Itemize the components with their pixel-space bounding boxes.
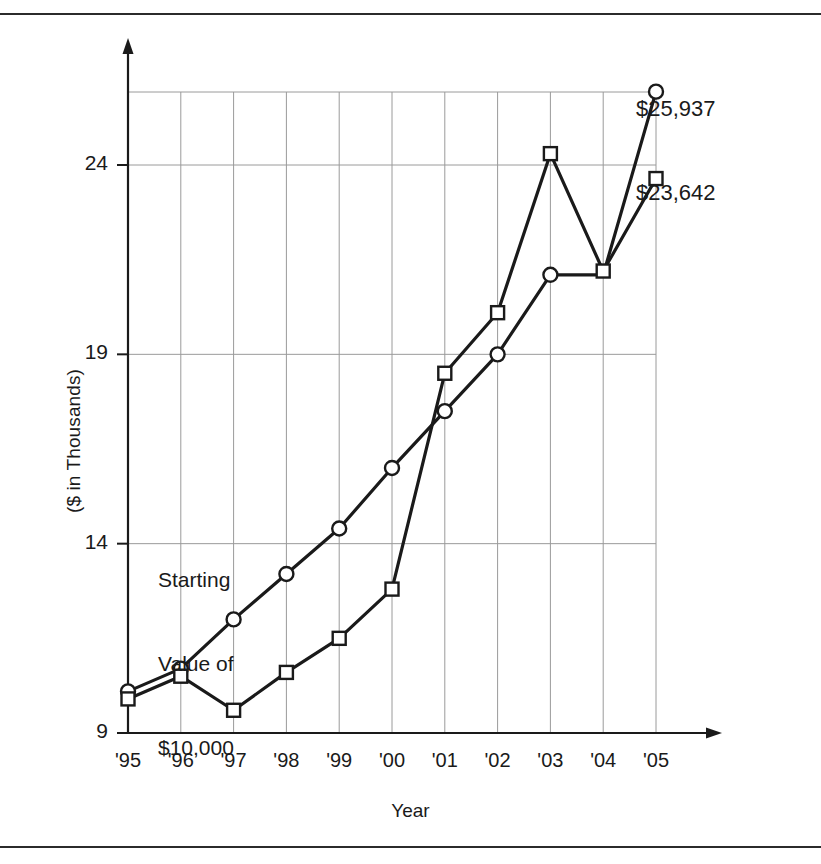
series-circle-end-label: $25,937 bbox=[636, 96, 716, 122]
y-tick-label: 9 bbox=[48, 719, 108, 743]
x-tick-label: '01 bbox=[415, 749, 475, 772]
y-tick-marks bbox=[117, 165, 128, 733]
y-tick-label: 19 bbox=[48, 340, 108, 364]
x-axis-title: Year bbox=[0, 800, 821, 822]
x-tick-label: '02 bbox=[468, 749, 528, 772]
marker-circle bbox=[385, 461, 399, 475]
y-tick-label: 24 bbox=[48, 151, 108, 175]
x-tick-label: '03 bbox=[520, 749, 580, 772]
annotation-line-2: Value of bbox=[158, 650, 234, 678]
y-tick-label: 14 bbox=[48, 530, 108, 554]
marker-circle bbox=[332, 522, 346, 536]
marker-circle bbox=[491, 347, 505, 361]
line-chart-plot bbox=[0, 0, 821, 864]
marker-square bbox=[438, 367, 451, 380]
marker-square bbox=[386, 583, 399, 596]
chart-figure: ($ in Thousands) Year 9141924 '95'96'97'… bbox=[0, 0, 821, 864]
marker-circle bbox=[279, 567, 293, 581]
x-axis-arrow bbox=[706, 728, 722, 739]
x-tick-label: '04 bbox=[573, 749, 633, 772]
marker-square bbox=[333, 632, 346, 645]
x-tick-label: '95 bbox=[98, 749, 158, 772]
y-axis-arrow bbox=[123, 38, 134, 54]
series-square-end-label: $23,642 bbox=[636, 180, 716, 206]
x-tick-label: '00 bbox=[362, 749, 422, 772]
starting-value-annotation: Starting Value of $10,000 bbox=[158, 510, 234, 818]
x-tick-label: '98 bbox=[256, 749, 316, 772]
x-tick-label: '05 bbox=[626, 749, 686, 772]
marker-circle bbox=[543, 268, 557, 282]
x-tick-label: '99 bbox=[309, 749, 369, 772]
marker-square bbox=[122, 692, 135, 705]
annotation-line-1: Starting bbox=[158, 566, 234, 594]
marker-square bbox=[280, 666, 293, 679]
marker-square bbox=[544, 147, 557, 160]
marker-square bbox=[597, 265, 610, 278]
marker-square bbox=[491, 306, 504, 319]
annotation-line-3: $10,000 bbox=[158, 734, 234, 762]
marker-circle bbox=[438, 404, 452, 418]
